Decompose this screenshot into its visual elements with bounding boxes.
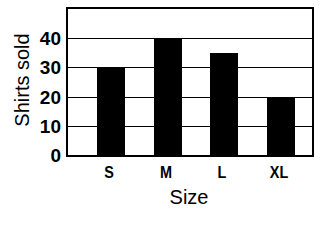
bar-m <box>154 38 182 155</box>
x-tick-m: M <box>160 163 172 183</box>
bar-l <box>210 53 238 155</box>
x-axis-label: Size <box>170 186 209 209</box>
gridline-40 <box>68 38 312 39</box>
bar-xl <box>267 97 295 155</box>
x-tick-xl: XL <box>270 163 288 183</box>
x-tick-l: L <box>218 163 227 183</box>
x-tick-s: S <box>104 163 114 183</box>
y-tick-20: 20 <box>40 88 61 107</box>
plot-area <box>66 7 314 157</box>
y-axis-label: Shirts sold <box>11 33 34 126</box>
y-tick-40: 40 <box>40 29 61 48</box>
y-tick-0: 0 <box>50 146 61 165</box>
y-tick-30: 30 <box>40 58 61 77</box>
y-tick-10: 10 <box>40 117 61 136</box>
bar-s <box>97 67 125 155</box>
